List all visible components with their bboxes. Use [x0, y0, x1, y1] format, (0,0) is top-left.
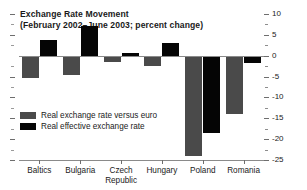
- bar-bulgaria-effective: [81, 26, 98, 56]
- y-tick-minor: [265, 87, 268, 88]
- left-tick-minor: [11, 87, 14, 88]
- left-tick-minor: [11, 150, 14, 151]
- bar-poland-euro: [185, 56, 202, 156]
- y-tick-label: -5: [272, 73, 279, 81]
- y-tick-minor: [265, 66, 268, 67]
- legend-item-effective: Real effective exchange rate: [20, 121, 157, 132]
- category-tick: [80, 160, 81, 164]
- category-tick: [203, 160, 204, 164]
- zero-line: [19, 56, 264, 57]
- y-tick-major: [264, 56, 269, 57]
- left-tick-minor: [11, 24, 14, 25]
- y-tick-major: [264, 14, 269, 15]
- bar-hungary-effective: [162, 43, 179, 56]
- left-tick-minor: [11, 66, 14, 67]
- chart-legend: Real exchange rate versus euro Real effe…: [20, 110, 157, 132]
- left-tick-minor: [11, 108, 14, 109]
- bar-bulgaria-euro: [63, 56, 80, 75]
- y-tick-major: [264, 139, 269, 140]
- y-tick-label: 0: [272, 52, 276, 60]
- y-tick-major: [264, 97, 269, 98]
- bar-poland-effective: [203, 56, 220, 133]
- bar-romania-euro: [226, 56, 243, 114]
- legend-swatch-icon-effective: [20, 123, 36, 130]
- left-tick-major: [10, 35, 15, 36]
- left-tick-major: [10, 139, 15, 140]
- left-tick-minor: [11, 129, 14, 130]
- value-axis: 1050-5-10-15-20-25: [264, 0, 307, 190]
- y-tick-minor: [265, 108, 268, 109]
- legend-item-euro: Real exchange rate versus euro: [20, 110, 157, 121]
- bar-baltics-euro: [22, 56, 39, 79]
- y-tick-label: -20: [272, 135, 284, 143]
- left-tick-major: [10, 14, 15, 15]
- left-tick-major: [10, 118, 15, 119]
- category-tick: [121, 160, 122, 164]
- left-tick-major: [10, 97, 15, 98]
- legend-swatch-icon-euro: [20, 112, 36, 119]
- legend-label-effective: Real effective exchange rate: [41, 122, 145, 131]
- y-tick-major: [264, 77, 269, 78]
- category-axis-line: [19, 160, 267, 161]
- chart-figure: Exchange Rate Movement (February 2002–Ju…: [0, 0, 307, 190]
- y-tick-minor: [265, 45, 268, 46]
- left-tick-major: [10, 160, 15, 161]
- bar-czech-republic-euro: [104, 56, 121, 63]
- y-tick-label: -15: [272, 114, 284, 122]
- bar-romania-effective: [244, 56, 261, 63]
- y-tick-minor: [265, 129, 268, 130]
- legend-label-euro: Real exchange rate versus euro: [41, 111, 157, 120]
- bar-baltics-effective: [40, 40, 57, 55]
- y-tick-label: -10: [272, 93, 284, 101]
- y-tick-minor: [265, 24, 268, 25]
- left-tick-major: [10, 77, 15, 78]
- y-tick-major: [264, 160, 269, 161]
- y-tick-label: 5: [272, 31, 276, 39]
- y-tick-label: 10: [272, 10, 281, 18]
- category-tick: [162, 160, 163, 164]
- bar-hungary-euro: [144, 56, 161, 67]
- y-tick-label: -25: [272, 156, 284, 164]
- y-tick-minor: [265, 150, 268, 151]
- plot-area: [19, 14, 264, 160]
- y-tick-major: [264, 35, 269, 36]
- category-tick: [39, 160, 40, 164]
- y-tick-major: [264, 118, 269, 119]
- category-tick: [244, 160, 245, 164]
- left-tick-minor: [11, 45, 14, 46]
